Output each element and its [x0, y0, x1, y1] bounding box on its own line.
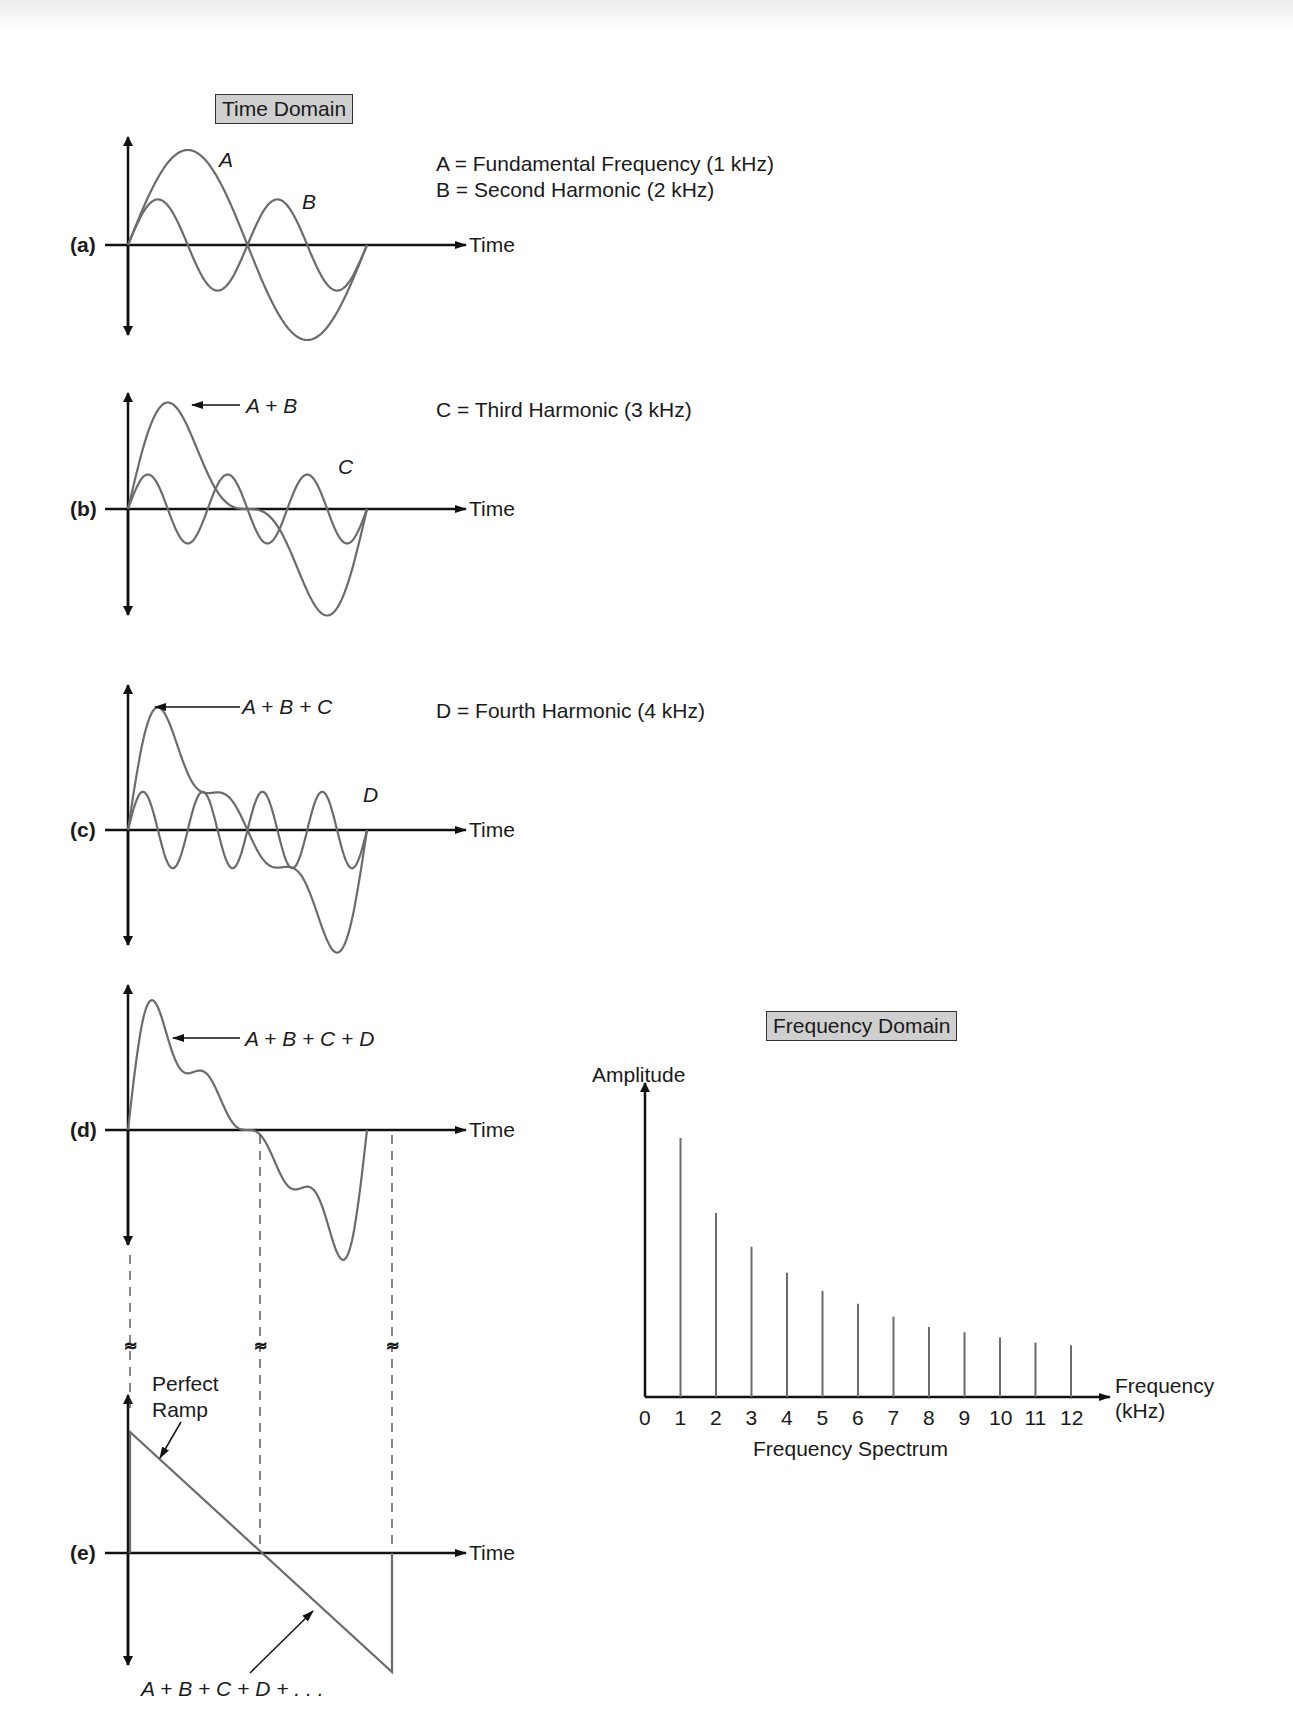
frequency-axis-label-line1: Frequency — [1115, 1374, 1214, 1398]
curve-label-D: D — [363, 783, 378, 807]
legend-B: B = Second Harmonic (2 kHz) — [436, 178, 714, 202]
time-axis-label-b: Time — [469, 497, 515, 521]
curve-label-B: B — [302, 190, 316, 214]
frequency-tick-label: 12 — [1060, 1406, 1083, 1430]
curve-label-C: C — [338, 455, 353, 479]
time-axis-label-c: Time — [469, 818, 515, 842]
time-axis-label-a: Time — [469, 233, 515, 257]
panel-label-e: (e) — [70, 1541, 96, 1565]
panel-label-d: (d) — [70, 1118, 97, 1142]
panel-label-b: (b) — [70, 497, 97, 521]
panel-label-c: (c) — [70, 818, 96, 842]
frequency-tick-label: 6 — [852, 1406, 864, 1430]
curve-label-infinite-sum: A + B + C + D + . . . — [141, 1677, 323, 1701]
time-axis-label-d: Time — [469, 1118, 515, 1142]
curve-label-A-B-C-D: A + B + C + D — [245, 1027, 374, 1051]
legend-C: C = Third Harmonic (3 kHz) — [436, 398, 692, 422]
axis-break-icon: ≈ — [124, 1336, 137, 1355]
frequency-tick-label: 10 — [989, 1406, 1012, 1430]
panel-label-a: (a) — [70, 233, 96, 257]
axis-break-icon: ≈ — [254, 1336, 267, 1355]
frequency-tick-label: 1 — [675, 1406, 687, 1430]
frequency-axis-label-line2: (kHz) — [1115, 1399, 1165, 1423]
frequency-tick-label: 8 — [923, 1406, 935, 1430]
frequency-tick-label: 7 — [888, 1406, 900, 1430]
frequency-tick-label: 3 — [746, 1406, 758, 1430]
curve-label-A-plus-B: A + B — [246, 394, 297, 418]
legend-A: A = Fundamental Frequency (1 kHz) — [436, 152, 774, 176]
curve-label-A: A — [219, 148, 233, 172]
time-axis-label-e: Time — [469, 1541, 515, 1565]
frequency-tick-label: 0 — [639, 1406, 651, 1430]
frequency-tick-label: 11 — [1025, 1406, 1047, 1430]
ramp-label-line1: Perfect — [152, 1372, 219, 1396]
amplitude-axis-label: Amplitude — [592, 1063, 685, 1087]
axis-break-icon: ≈ — [386, 1336, 399, 1355]
figure-canvas: ≈≈≈ — [0, 0, 1293, 1723]
spectrum-caption: Frequency Spectrum — [753, 1437, 948, 1461]
frequency-tick-label: 9 — [959, 1406, 971, 1430]
spectrum-chart — [645, 1083, 1110, 1397]
frequency-tick-label: 4 — [781, 1406, 793, 1430]
curve-label-A-B-C: A + B + C — [242, 695, 332, 719]
frequency-domain-title: Frequency Domain — [766, 1011, 957, 1041]
legend-D: D = Fourth Harmonic (4 kHz) — [436, 699, 705, 723]
ramp-label-line2: Ramp — [152, 1398, 208, 1422]
frequency-tick-label: 2 — [710, 1406, 722, 1430]
frequency-tick-label: 5 — [817, 1406, 829, 1430]
